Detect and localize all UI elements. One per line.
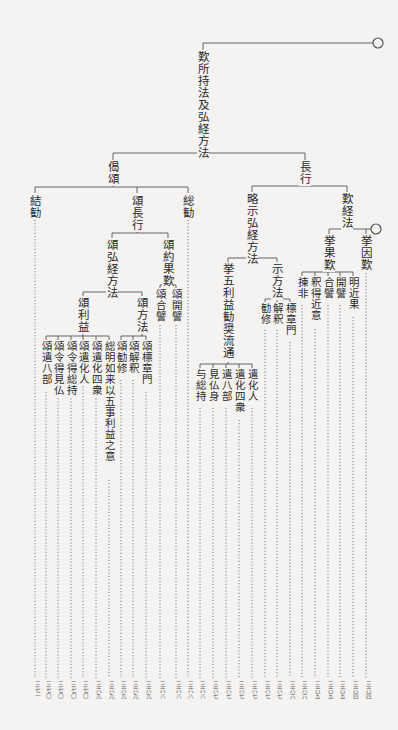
- page-ref: 三六五: [322, 681, 334, 699]
- leaf-7: 頌勧修: [115, 340, 126, 375]
- leaf-5: 頌遣化四衆: [90, 340, 101, 397]
- node-kyointan: 挙因歎: [360, 234, 372, 272]
- leaf-16: 遣化四衆: [233, 368, 244, 414]
- leaf-25: 明近果: [347, 276, 358, 311]
- page-ref: 三七〇: [65, 681, 77, 699]
- node-ju-riyaku: 頌利益: [77, 296, 89, 334]
- node-ju-chogyo: 頌長行: [131, 194, 143, 232]
- root-node: 歎所持法及弘経方法: [197, 50, 209, 160]
- node-jihoho: 示方法: [271, 262, 283, 300]
- leaf-4: 頌遣化人: [77, 340, 88, 386]
- node-ketsukan: 結勧: [29, 194, 41, 220]
- page-ref: 三六九: [90, 681, 102, 699]
- leaf-13: 与総持: [194, 368, 205, 403]
- branch-circle-icon: [371, 224, 381, 234]
- page-ref: 三六七: [220, 681, 232, 699]
- page-ref: 三七〇: [40, 681, 52, 699]
- leaf-18: 勧修: [259, 302, 270, 326]
- node-kyogoriyaku: 挙五利益勧奨流通: [222, 262, 234, 360]
- page-ref: 三六七: [233, 681, 245, 699]
- page-ref: 三六八: [154, 681, 166, 699]
- node-sokan: 総勧: [182, 194, 194, 220]
- leaf-23: 合譬: [322, 276, 333, 300]
- leaf-19: 解釈: [271, 302, 282, 326]
- leaf-11: 頌開譬: [170, 288, 181, 323]
- outline-diagram: 歎所持法及弘経方法 偈頌 長行 結勧 頌長行 総勧 頌弘経方法 頌約果歎 頌利益…: [0, 0, 398, 730]
- leaf-24: 開譬: [334, 276, 345, 300]
- node-ju-gukyo: 頌弘経方法: [106, 238, 118, 300]
- leaf-9: 頌標章門: [140, 340, 151, 386]
- page-ref: 三六七: [259, 681, 271, 699]
- page-ref: 三六六: [284, 681, 296, 699]
- leaf-10: 頌合譬: [154, 288, 165, 323]
- node-kyokatan: 挙果歎: [323, 234, 335, 272]
- node-geju: 偈頌: [107, 160, 119, 186]
- page-ref: 三六八: [194, 681, 206, 699]
- node-ju-yakuka: 頌約果歎: [162, 238, 174, 288]
- page-ref: 三六八: [182, 681, 194, 699]
- leaf-6: 総明如来以五事利益之意: [103, 340, 114, 463]
- page-ref: 三六九: [115, 681, 127, 699]
- node-ryakuji: 略示弘経方法: [246, 192, 258, 266]
- page-ref: 三六四: [360, 681, 372, 699]
- page-ref: 三六七: [207, 681, 219, 699]
- leaf-21: 揀非: [296, 276, 307, 300]
- origin-circle-icon: [373, 38, 383, 48]
- leaf-2: 頌令得見仏: [52, 340, 63, 397]
- leaf-14: 見仏身: [207, 368, 218, 403]
- leaf-15: 遣八部: [220, 368, 231, 403]
- leaf-17: 遣化人: [246, 368, 257, 403]
- page-ref: 三七〇: [52, 681, 64, 699]
- leaf-22: 釈得近意: [309, 276, 320, 322]
- page-ref: 三六八: [170, 681, 182, 699]
- page-ref: 三六七: [246, 681, 258, 699]
- node-chogyo: 長行: [299, 160, 311, 186]
- leaf-20: 標章門: [284, 302, 295, 337]
- leaf-1: 頌遣八部: [40, 340, 51, 386]
- page-ref: 三六九: [140, 681, 152, 699]
- node-tangyo: 歎経法: [341, 192, 353, 230]
- leaf-8: 頌解釈: [127, 340, 138, 375]
- page-ref: 三六六: [296, 681, 308, 699]
- node-ju-hoho: 頌方法: [136, 296, 148, 334]
- leaf-3: 頌令得総持: [65, 340, 76, 397]
- page-ref: 三六五: [334, 681, 346, 699]
- page-ref: 三六九: [127, 681, 139, 699]
- page-ref: 三七〇: [77, 681, 89, 699]
- page-ref: 三六九: [103, 681, 115, 699]
- page-ref: 三六七: [271, 681, 283, 699]
- page-ref: 三六五: [309, 681, 321, 699]
- page-ref: 三六四: [347, 681, 359, 699]
